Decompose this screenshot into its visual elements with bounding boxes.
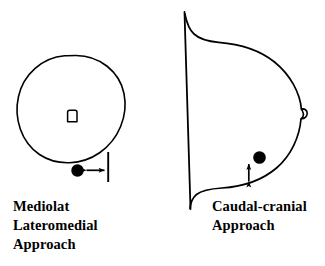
panel-mediolateral bbox=[17, 56, 125, 183]
limb-cross-section-outline bbox=[17, 56, 125, 163]
target-dot-caudalcranial bbox=[253, 151, 266, 164]
caption-caudalcranial: Caudal-cranial Approach bbox=[212, 197, 307, 235]
center-structure-icon bbox=[68, 110, 77, 122]
caption-caudalcranial-line-2: Approach bbox=[212, 216, 307, 235]
panel-caudalcranial bbox=[185, 12, 308, 209]
figure-container: Mediolat Lateromedial Approach Caudal-cr… bbox=[0, 0, 325, 266]
cranial-dome-lower-curve bbox=[190, 119, 301, 209]
caption-mediolateral: Mediolat Lateromedial Approach bbox=[13, 197, 98, 254]
margin-bump-feature bbox=[301, 109, 307, 119]
caption-mediolateral-line-2: Lateromedial bbox=[13, 216, 98, 235]
caption-mediolateral-line-1: Mediolat bbox=[13, 197, 98, 216]
caption-caudalcranial-line-1: Caudal-cranial bbox=[212, 197, 307, 216]
cranial-dome-upper-curve bbox=[185, 14, 302, 110]
caudal-border-line bbox=[185, 12, 191, 209]
caption-mediolateral-line-3: Approach bbox=[13, 235, 98, 254]
target-dot-mediolateral bbox=[71, 164, 83, 176]
